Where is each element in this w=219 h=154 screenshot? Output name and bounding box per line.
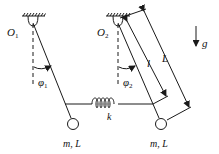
coupled-pendulum-diagram: O1 O2 φ1 φ2 k m, L m, L l L g xyxy=(0,0,219,154)
diagram-canvas xyxy=(0,0,219,154)
dimension-label-l: l xyxy=(147,58,150,69)
pendulum-bob-2 xyxy=(156,119,167,130)
dimension-L xyxy=(120,9,191,120)
pivot-label-o1: O1 xyxy=(7,27,18,40)
angle-arrow-2 xyxy=(119,66,135,69)
dimension-label-L: L xyxy=(162,53,168,64)
spring-label-k: k xyxy=(107,112,111,122)
coupling-spring xyxy=(65,98,153,108)
angle-label-phi2: φ2 xyxy=(123,77,133,90)
bob-label-1: m, L xyxy=(63,139,81,149)
angle-arrow-1 xyxy=(34,66,51,69)
gravity-label-g: g xyxy=(202,38,208,49)
pendulum-bob-1 xyxy=(68,119,79,130)
angle-label-phi1: φ1 xyxy=(38,77,48,90)
bob-label-2: m, L xyxy=(150,139,168,149)
pivot-label-o2: O2 xyxy=(97,27,108,40)
